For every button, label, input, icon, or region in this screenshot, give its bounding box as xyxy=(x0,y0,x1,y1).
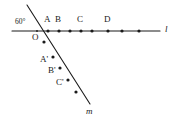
point-on-l-label-C: C xyxy=(77,15,83,24)
point-on-l-label-B: B xyxy=(55,15,61,24)
dots-group xyxy=(36,29,140,93)
line-m-label: m xyxy=(86,107,93,116)
point-on-m-dot-1 xyxy=(51,55,54,58)
lines-group xyxy=(12,5,160,104)
point-on-m-dot-4 xyxy=(74,90,77,93)
point-on-l-label-D: D xyxy=(104,15,111,24)
point-on-m-dot-0 xyxy=(42,40,45,43)
line-l-label: l xyxy=(165,25,168,34)
point-on-l-dot-0 xyxy=(46,29,49,32)
point-on-l-dot-1 xyxy=(57,29,60,32)
point-on-m-label-C-prime: C' xyxy=(56,78,64,87)
point-on-l-dot-2 xyxy=(68,29,71,32)
point-on-l-label-A: A xyxy=(44,15,51,24)
point-on-m-label-B-prime: B' xyxy=(48,66,56,75)
angle-60-label: 60° xyxy=(15,18,26,26)
point-on-m-dot-3 xyxy=(66,78,69,81)
point-O-label: O xyxy=(32,33,39,42)
point-on-m-label-A-prime: A' xyxy=(40,55,48,64)
point-on-l-dot-3 xyxy=(79,29,82,32)
geometry-figure: lmABCDA'B'C'O60° xyxy=(0,0,179,125)
point-on-l-dot-7 xyxy=(137,29,140,32)
point-on-m-dot-2 xyxy=(58,66,61,69)
point-on-l-dot-4 xyxy=(90,29,93,32)
point-on-l-dot-5 xyxy=(106,29,109,32)
point-on-l-dot-6 xyxy=(120,29,123,32)
